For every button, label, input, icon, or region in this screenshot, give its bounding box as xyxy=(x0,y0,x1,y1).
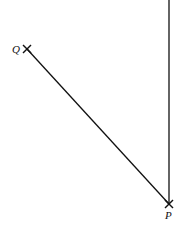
point-label-q: Q xyxy=(12,43,20,55)
segment-qp xyxy=(27,49,169,204)
cross-marker-q-icon xyxy=(23,45,31,53)
point-label-p: P xyxy=(164,209,172,221)
diagram-canvas: Q P xyxy=(0,0,176,231)
